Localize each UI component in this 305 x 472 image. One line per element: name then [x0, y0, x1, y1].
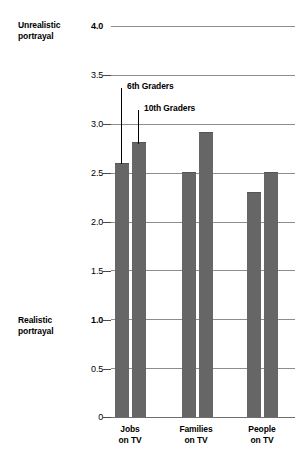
bar-families-6th — [182, 172, 196, 417]
legend-leader-line-6th — [121, 88, 122, 164]
tick-mark-0 — [103, 417, 111, 418]
legend-leader-line-10th — [138, 110, 139, 144]
bar-jobs-6th — [115, 163, 129, 417]
tick-mark-0-5 — [103, 369, 111, 370]
gridline-3-5 — [111, 75, 295, 76]
y-tick-3-5: 3.5 — [57, 70, 103, 80]
bar-people-10th — [264, 172, 278, 417]
y-tick-2-5: 2.5 — [57, 168, 103, 178]
x-label-people: People on TV — [232, 424, 292, 445]
x-label-jobs: Jobs on TV — [100, 424, 160, 445]
y-tick-4-0: 4.0 — [57, 21, 103, 31]
gridline-baseline — [111, 417, 295, 418]
tick-mark-1-5 — [103, 271, 111, 272]
y-tick-2-0: 2.0 — [57, 217, 103, 227]
y-tick-1-5: 1.5 — [57, 266, 103, 276]
tick-mark-2-0 — [103, 222, 111, 223]
y-tick-1-0: 1.0 — [57, 315, 103, 325]
gridline-4-0 — [111, 26, 295, 27]
bar-chart: Unrealistic portrayal Realistic portraya… — [0, 0, 305, 472]
tick-mark-2-5 — [103, 173, 111, 174]
y-tick-3-0: 3.0 — [57, 119, 103, 129]
bar-jobs-10th — [132, 142, 146, 417]
tick-mark-3-0 — [103, 124, 111, 125]
bar-families-10th — [199, 132, 213, 417]
bar-people-6th — [247, 192, 261, 417]
legend-label-10th: 10th Graders — [144, 103, 195, 113]
y-axis: 4.0 3.5 3.0 2.5 2.0 1.5 1.0 0.5 0 — [0, 0, 103, 472]
y-tick-0: 0 — [57, 412, 103, 422]
legend-label-6th: 6th Graders — [127, 81, 174, 91]
x-label-families: Families on TV — [166, 424, 226, 445]
y-tick-0-5: 0.5 — [57, 364, 103, 374]
tick-mark-1-0 — [103, 320, 111, 321]
tick-mark-3-5 — [103, 75, 111, 76]
